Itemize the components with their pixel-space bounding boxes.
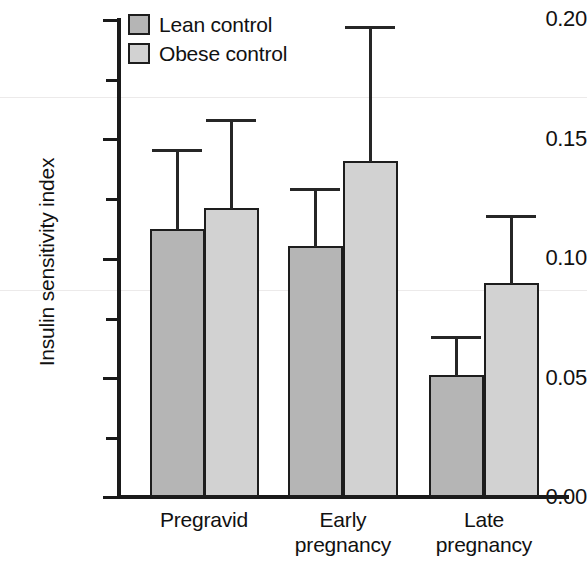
errorbar-stem-early-pregnancy-lean — [314, 189, 317, 247]
bar-pregravid-lean — [150, 229, 205, 497]
plot-area — [0, 0, 587, 562]
legend-label-lean-control: Lean control — [159, 13, 272, 37]
x-tick-label-line1: Early — [263, 507, 423, 532]
errorbar-stem-early-pregnancy-obese — [369, 27, 372, 162]
errorbar-stem-pregravid-obese — [230, 120, 233, 209]
legend-label-obese-control: Obese control — [159, 42, 287, 66]
errorbar-stem-late-pregnancy-obese — [510, 216, 513, 284]
legend-swatch-obese-icon — [128, 43, 150, 64]
bar-chart-figure: Insulin sensitivity index 0.20 0.15 0.10… — [0, 0, 587, 562]
errorbar-cap-early-pregnancy-obese — [345, 26, 395, 29]
bar-pregravid-obese — [204, 208, 259, 497]
bar-late-pregnancy-obese — [484, 283, 539, 497]
errorbar-stem-pregravid-lean — [176, 150, 179, 230]
errorbar-cap-late-pregnancy-obese — [486, 215, 536, 218]
x-tick-label-early-pregnancy: Early pregnancy — [263, 507, 423, 557]
errorbar-cap-early-pregnancy-lean — [290, 188, 340, 191]
x-tick-label-line1: Pregravid — [124, 507, 284, 532]
legend-item-lean-control: Lean control — [128, 10, 287, 39]
legend-swatch-lean-icon — [128, 14, 150, 35]
x-tick-label-line1: Late — [404, 507, 564, 532]
x-tick-label-line2: pregnancy — [404, 532, 564, 557]
errorbar-stem-late-pregnancy-lean — [455, 337, 458, 376]
chart-legend: Lean control Obese control — [128, 10, 287, 68]
x-tick-label-late-pregnancy: Late pregnancy — [404, 507, 564, 557]
bar-early-pregnancy-obese — [343, 161, 398, 497]
x-tick-label-line2: pregnancy — [263, 532, 423, 557]
errorbar-cap-pregravid-obese — [206, 119, 256, 122]
x-tick-label-pregravid: Pregravid — [124, 507, 284, 532]
errorbar-cap-late-pregnancy-lean — [431, 336, 481, 339]
bar-late-pregnancy-lean — [429, 375, 484, 497]
errorbar-cap-pregravid-lean — [152, 149, 202, 152]
bar-early-pregnancy-lean — [288, 246, 343, 497]
legend-item-obese-control: Obese control — [128, 39, 287, 68]
